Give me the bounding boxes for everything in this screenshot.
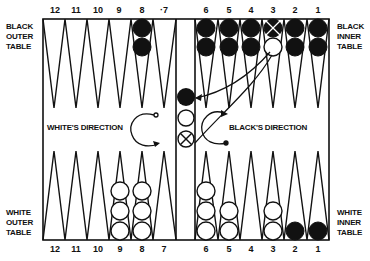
point-number-top: 10 (90, 5, 106, 15)
white-direction-label: WHITE'S DIRECTION (47, 123, 123, 132)
point-number-top: 11 (68, 5, 84, 15)
label-line: BLACK (337, 22, 364, 32)
black-direction-label: BLACK'S DIRECTION (229, 123, 307, 132)
white-outer-table-label: WHITE OUTER TABLE (6, 208, 33, 238)
point-number-top: 4 (243, 5, 259, 15)
point-number-bottom: 1 (310, 244, 326, 254)
bottom-points-right (195, 151, 329, 240)
point-number-top: 8 (134, 5, 150, 15)
label-line: BLACK (6, 22, 33, 32)
point-number-top: 6 (198, 5, 214, 15)
label-line: TABLE (6, 228, 33, 238)
point-number-bottom: 7 (156, 244, 172, 254)
label-line: INNER (337, 32, 364, 42)
point-number-top: 12 (47, 5, 63, 15)
point-number-bottom: 6 (198, 244, 214, 254)
black-outer-table-label: BLACK OUTER TABLE (6, 22, 33, 52)
bar-crossed-checker (178, 131, 194, 147)
label-line: OUTER (6, 32, 33, 42)
black-direction-arrow (202, 112, 228, 145)
label-line: WHITE (6, 208, 33, 218)
white-direction-arrowhead-icon (153, 141, 160, 147)
point-number-top: 1 (310, 5, 326, 15)
point-number-bottom: 4 (243, 244, 259, 254)
label-line: TABLE (337, 42, 364, 52)
label-line: WHITE (337, 208, 362, 218)
label-line: TABLE (337, 228, 362, 238)
white-inner-table-label: WHITE INNER TABLE (337, 208, 362, 238)
point-number-top: 2 (287, 5, 303, 15)
top-points-right (195, 19, 329, 108)
point-number-bottom: 3 (265, 244, 281, 254)
bottom-points-left (43, 151, 176, 240)
black-inner-table-label: BLACK INNER TABLE (337, 22, 364, 52)
label-line: OUTER (6, 218, 33, 228)
label-line: INNER (337, 218, 362, 228)
arrow-head-icon (195, 94, 202, 101)
point-number-bottom: 5 (221, 244, 237, 254)
label-line: TABLE (6, 42, 33, 52)
bar-white-checker (178, 110, 194, 126)
white-direction-arrow (131, 113, 158, 146)
black-checkers-top (133, 19, 327, 56)
point-number-bottom: 11 (68, 244, 84, 254)
top-points-left (43, 19, 176, 108)
point-number-top: 9 (111, 5, 127, 15)
point-number-bottom: 2 (287, 244, 303, 254)
white-checker-top-3 (264, 38, 282, 56)
point-number-bottom: 12 (47, 244, 63, 254)
black-direction-arrowhead-icon (221, 110, 228, 117)
point-number-top: ·7 (156, 5, 172, 15)
point-number-top: 3 (265, 5, 281, 15)
point-number-top: 5 (221, 5, 237, 15)
point-number-bottom: 8 (134, 244, 150, 254)
point-number-bottom: 9 (112, 244, 128, 254)
point-number-bottom: 10 (90, 244, 106, 254)
bar-black-checker (177, 88, 195, 106)
